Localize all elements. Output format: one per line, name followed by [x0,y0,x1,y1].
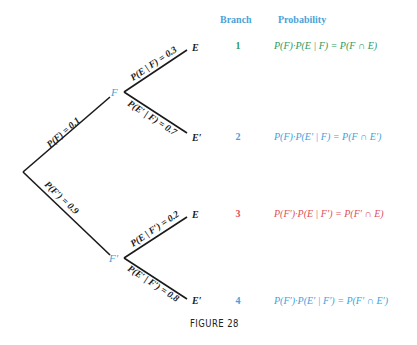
probability-tree: P(F) = 0.1 P(F′) = 0.9 P(E | F) = 0.3 P(… [0,0,417,345]
edge-root-Fprime [23,172,110,255]
leaf-Eprime-2: E′ [191,132,202,143]
label-P-E-given-F: P(E | F) = 0.3 [129,44,180,83]
leaf-E-1: E [191,42,199,53]
node-Fprime: F′ [108,252,119,264]
leaf-Eprime-4: E′ [191,295,202,306]
leaf-E-3: E [191,209,199,220]
label-P-F: P(F) = 0.1 [45,115,83,150]
branch-number-2: 2 [228,131,248,142]
node-F: F [110,86,118,98]
branch-formula-2: P(F)·P(E′ | F) = P(F ∩ E′) [274,131,381,142]
probability-header: Probability [278,14,326,25]
figure-caption: FIGURE 28 [190,318,239,329]
label-P-Fprime: P(F′) = 0.9 [42,179,81,217]
branch-formula-3: P(F′)·P(E | F′) = P(F′ ∩ E) [274,208,384,219]
branch-header: Branch [220,14,252,25]
branch-number-1: 1 [228,40,248,51]
branch-number-4: 4 [228,295,248,306]
edge-F-Eprime [124,92,187,133]
branch-formula-1: P(F)·P(E | F) = P(F ∩ E) [274,40,377,51]
branch-number-3: 3 [228,208,248,219]
branch-formula-4: P(F′)·P(E′ | F′) = P(F′ ∩ E′) [274,295,388,306]
label-P-Eprime-given-F: P(E′ | F) = 0.7 [125,98,179,139]
label-P-Eprime-given-Fprime: P(E′ | F′) = 0.8 [125,263,181,305]
label-P-E-given-Fprime: P(E | F′) = 0.2 [129,209,182,250]
